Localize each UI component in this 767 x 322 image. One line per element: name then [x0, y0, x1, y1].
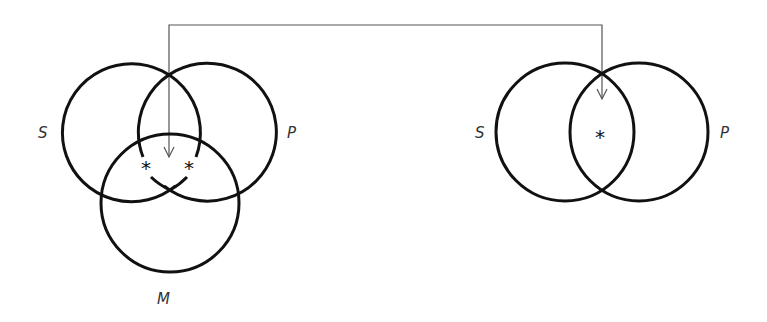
label-p-right: P: [720, 124, 730, 142]
label-s-left: S: [38, 124, 48, 142]
circle-s-right: [496, 63, 634, 201]
circle-p-left: [138, 63, 276, 201]
connector-arrow: [164, 25, 607, 157]
label-p-left: P: [287, 124, 297, 142]
asterisk-mark: *: [595, 125, 605, 149]
circle-p-right: [570, 63, 708, 201]
label-m-left: M: [157, 290, 170, 308]
asterisk-mark: *: [184, 156, 194, 180]
venn-diagram: S P M * * S P *: [0, 0, 767, 322]
circle-s-left: [62, 64, 200, 202]
asterisk-mark: *: [141, 156, 151, 180]
label-s-right: S: [475, 124, 485, 142]
